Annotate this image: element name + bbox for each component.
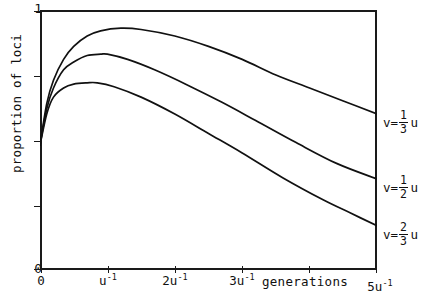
x-axis-tick-label-2u-text: 2u — [162, 273, 177, 288]
curve-label-2-var: v — [383, 182, 391, 194]
x-axis-tick-label-1u: u-1 — [99, 274, 117, 288]
curve-v-one-half-u — [40, 54, 377, 179]
curve-v-two-thirds-u — [40, 82, 377, 225]
x-axis-tick-label-5u: 5u-1 — [367, 280, 392, 294]
curve-v-one-third-u — [40, 28, 377, 145]
curve-label-v-two-thirds-u: v=23u — [383, 222, 418, 247]
curve-label-v-one-half-u: v=12u — [383, 175, 418, 200]
x-axis-tick-0 — [41, 266, 42, 273]
x-axis-tick-label-5u-text: 5u — [367, 279, 382, 294]
curve-layer — [40, 10, 377, 270]
curve-label-1-var: v — [383, 117, 391, 129]
curve-label-2-denominator: 2 — [399, 188, 408, 200]
x-axis-title: generations — [262, 274, 348, 289]
figure-container: proportion of loci 1 0 0 u-1 2u-1 3u-1 5… — [0, 0, 423, 298]
x-axis-tick-label-3u: 3u-1 — [229, 274, 254, 288]
x-axis-tick-label-1u-text: u — [99, 273, 107, 288]
x-axis-tick-label-0-text: 0 — [37, 273, 45, 288]
curve-label-2-fraction: 12 — [399, 175, 408, 200]
x-axis-tick-3u — [242, 266, 243, 273]
x-axis-tick-label-5u-exp: -1 — [382, 278, 392, 288]
curve-label-3-fraction: 23 — [399, 222, 408, 247]
curve-label-1-unit: u — [411, 117, 419, 129]
curve-label-2-eq: = — [391, 182, 399, 194]
y-axis-title: proportion of loci — [9, 24, 24, 184]
curve-label-1-fraction: 13 — [399, 110, 408, 135]
x-axis-tick-4u — [309, 266, 310, 273]
x-axis-tick-label-2u: 2u-1 — [162, 274, 187, 288]
x-axis-tick-2u — [175, 266, 176, 273]
x-axis-tick-label-2u-exp: -1 — [177, 272, 187, 282]
x-axis-tick-label-1u-exp: -1 — [107, 272, 117, 282]
x-axis-tick-label-3u-text: 3u — [229, 273, 244, 288]
curve-label-1-denominator: 3 — [399, 123, 408, 135]
curve-label-v-one-third-u: v=13u — [383, 110, 418, 135]
curve-label-3-var: v — [383, 229, 391, 241]
x-axis-tick-label-3u-exp: -1 — [244, 272, 254, 282]
x-axis-tick-5u — [376, 266, 377, 273]
curve-label-3-denominator: 3 — [399, 235, 408, 247]
x-axis-tick-label-0: 0 — [37, 274, 45, 288]
curve-label-1-eq: = — [391, 117, 399, 129]
curve-label-3-unit: u — [411, 229, 419, 241]
curve-label-3-eq: = — [391, 229, 399, 241]
curve-label-2-unit: u — [411, 182, 419, 194]
